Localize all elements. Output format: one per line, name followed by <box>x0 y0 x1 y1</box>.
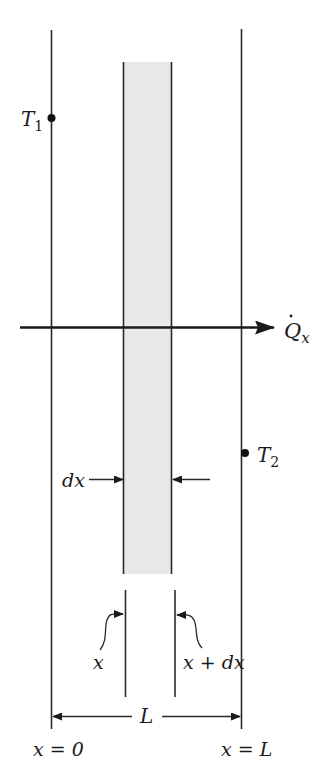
right-boundary-label: x = L <box>221 738 272 760</box>
x-leader-arrow-icon <box>100 614 123 650</box>
length-label: L <box>139 704 153 728</box>
t1-label: T1 <box>21 107 43 134</box>
dx-label: dx <box>62 469 85 491</box>
heat-flow-label: Qx <box>284 319 310 347</box>
t2-point-icon <box>241 449 249 457</box>
left-boundary-label: x = 0 <box>33 738 84 760</box>
t2-label: T2 <box>257 443 279 470</box>
heat-flow-rate-dot-icon <box>290 315 293 318</box>
x-plus-dx-leader-arrow-icon <box>177 615 202 648</box>
x-label: x <box>93 651 104 673</box>
plane-wall-diagram: T1 T2 Qx dx x x + dx L x = 0 x = L <box>0 0 327 782</box>
t1-point-icon <box>48 114 56 122</box>
x-plus-dx-label: x + dx <box>183 651 245 673</box>
differential-element-strip <box>124 62 171 574</box>
